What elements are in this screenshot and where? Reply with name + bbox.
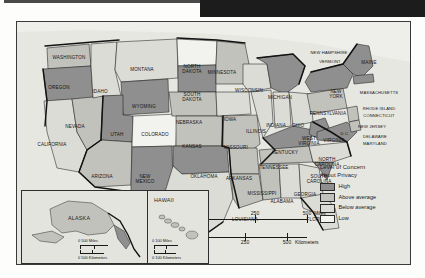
mini-scale-tick xyxy=(80,245,81,249)
map-page: WASHINGTONOREGONIDAHOMONTANAWYOMINGNEVAD… xyxy=(0,0,425,278)
legend-label: Above average xyxy=(339,194,377,202)
inset-scale-km-hawaii: 0 100 Kilometers xyxy=(152,255,181,260)
scale-label-250: 250 xyxy=(241,239,249,245)
legend-items: HighAbove averageBelow averageLow xyxy=(320,183,404,224)
map-legend: Level of Concern About Privacy HighAbove… xyxy=(320,164,404,225)
inset-label-alaska: ALASKA xyxy=(68,215,90,221)
inset-scale-miles-hawaii: 0 100 Miles xyxy=(152,238,172,243)
inset-label-hawaii: HAWAII xyxy=(154,197,174,203)
inset-alaska: ALASKA 0 500 Miles 0 500 Kilometers xyxy=(21,190,149,264)
legend-swatch xyxy=(320,193,335,202)
inset-scale-km-alaska: 0 500 Kilometers xyxy=(78,255,107,260)
scale-rule xyxy=(203,237,307,238)
legend-item-above-average: Above average xyxy=(320,193,404,202)
legend-item-below-average: Below average xyxy=(320,204,404,213)
scale-bar-kilometers: 0 250 500 Kilometers xyxy=(203,230,323,244)
inset-hawaii: HAWAII 0 100 Miles 0 100 Kilometers xyxy=(147,190,209,264)
legend-title-line2: About Privacy xyxy=(320,172,404,180)
legend-item-high: High xyxy=(320,183,404,192)
legend-item-low: Low xyxy=(320,215,404,224)
top-banner-right-block xyxy=(200,0,425,17)
mini-scale-tick xyxy=(165,250,166,254)
legend-label: Low xyxy=(339,215,349,223)
mini-scale-tick xyxy=(80,250,81,254)
legend-label: Below average xyxy=(339,204,376,212)
us-choropleth-map: WASHINGTONOREGONIDAHOMONTANAWYOMINGNEVAD… xyxy=(16,21,411,265)
mini-scale-tick xyxy=(166,245,167,249)
scale-unit-miles: Miles xyxy=(314,210,326,216)
mini-scale-tick xyxy=(92,250,93,254)
scale-label-500: 500 xyxy=(283,239,291,245)
mini-scale-tick xyxy=(154,245,155,249)
inset-scale-miles-alaska: 0 500 Miles xyxy=(78,238,98,243)
scale-tick xyxy=(255,215,256,223)
scale-label-500: 500 xyxy=(303,210,311,216)
legend-swatch xyxy=(320,183,335,192)
scale-bar-main: 0 250 500 Miles 0 250 500 Kilometers xyxy=(203,212,323,244)
scale-label-250: 250 xyxy=(251,210,259,216)
legend-title-line1: Level of Concern xyxy=(320,164,404,172)
legend-title: Level of Concern About Privacy xyxy=(320,164,404,180)
top-banner-left-strip xyxy=(4,0,200,3)
mini-scale-tick xyxy=(154,250,155,254)
legend-label: High xyxy=(339,183,351,191)
scale-bar-miles: 0 250 500 Miles xyxy=(203,212,323,226)
scale-unit-kilometers: Kilometers xyxy=(295,239,319,245)
scale-tick xyxy=(307,215,308,223)
mini-scale-tick xyxy=(94,245,95,249)
